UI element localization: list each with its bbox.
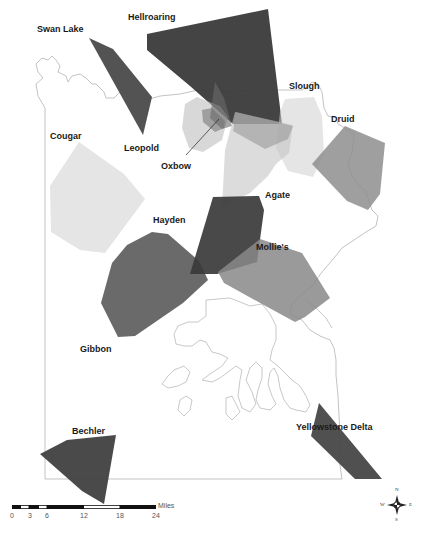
label-leopold: Leopold (124, 143, 159, 153)
label-bechler: Bechler (72, 426, 105, 436)
label-druid: Druid (331, 114, 355, 124)
scale-unit-label: Miles (158, 502, 174, 509)
label-mollie-s: Mollie's (256, 242, 289, 252)
territory-map (0, 0, 435, 541)
scale-tick-12: 12 (80, 512, 88, 519)
scale-tick-0: 0 (10, 512, 14, 519)
label-hayden: Hayden (153, 215, 186, 225)
scale-tick-24: 24 (152, 512, 160, 519)
territory-cougar (50, 142, 145, 253)
label-cougar: Cougar (50, 131, 82, 141)
label-gibbon: Gibbon (80, 344, 112, 354)
label-swan-lake: Swan Lake (37, 24, 84, 34)
label-slough: Slough (289, 81, 320, 91)
scale-tick-6: 6 (45, 512, 49, 519)
compass-west: W (380, 502, 385, 507)
label-agate: Agate (265, 190, 290, 200)
territory-yellowstone-delta (311, 403, 382, 479)
compass-north: N (395, 487, 399, 492)
label-yellowstone-delta: Yellowstone Delta (296, 422, 373, 432)
label-hellroaring: Hellroaring (128, 12, 176, 22)
compass-south: S (395, 517, 398, 522)
scale-tick-18: 18 (116, 512, 124, 519)
territory-hayden (101, 232, 208, 337)
compass-rose-icon (387, 495, 407, 515)
label-oxbow: Oxbow (161, 161, 191, 171)
territory-bechler (40, 435, 116, 504)
compass-east: E (409, 502, 412, 507)
scale-tick-3: 3 (28, 512, 32, 519)
scale-bar (12, 505, 156, 509)
lake-outline (162, 298, 332, 420)
